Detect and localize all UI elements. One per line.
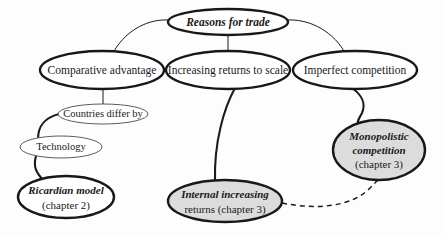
node-label-internal-increasing-returns-line2: returns (chapter 3) [184,203,266,216]
node-comparative-advantage[interactable]: Comparative advantage [40,51,164,89]
node-technology[interactable]: Technology [20,136,102,158]
node-increasing-returns-to-scale[interactable]: Increasing returns to scale [166,51,290,89]
node-label-technology: Technology [36,141,86,152]
trade-reasons-diagram: Reasons for trade Comparative advantage … [0,0,446,236]
node-label-imperfect-competition: Imperfect competition [304,64,407,77]
node-internal-increasing-returns[interactable]: Internal increasing returns (chapter 3) [168,180,282,222]
node-label-internal-increasing-returns-line1: Internal increasing [180,188,269,200]
node-label-monopolistic-competition-line2: competition [352,144,405,156]
node-layer: Reasons for trade Comparative advantage … [18,9,425,222]
node-label-increasing-returns-to-scale: Increasing returns to scale [168,64,288,77]
node-label-reasons-for-trade: Reasons for trade [185,16,270,29]
node-shape-ricardian-model [18,176,114,218]
edge-technology-to-ricardian [35,156,43,180]
node-label-monopolistic-competition-line1: Monopolistic [348,130,408,142]
edge-countries-to-technology [38,114,59,139]
node-ricardian-model[interactable]: Ricardian model (chapter 2) [18,176,114,218]
edge-reasons-to-imperfect [288,20,345,51]
node-label-comparative-advantage: Comparative advantage [48,64,157,77]
node-monopolistic-competition[interactable]: Monopolistic competition (chapter 3) [333,120,425,180]
edge-imperfect-to-monopolistic [352,88,364,124]
edge-internal-to-monopolistic [282,179,380,206]
node-shape-internal-increasing-returns [168,180,282,222]
node-label-ricardian-model-line1: Ricardian model [27,184,104,196]
edge-increasing-to-internal [215,88,235,181]
node-imperfect-competition[interactable]: Imperfect competition [293,51,417,89]
node-countries-differ-by[interactable]: Countries differ by [58,104,148,124]
diagram-canvas: Reasons for trade Comparative advantage … [0,0,446,236]
node-label-countries-differ-by: Countries differ by [63,108,143,119]
node-label-ricardian-model-line2: (chapter 2) [42,199,90,212]
node-reasons-for-trade[interactable]: Reasons for trade [168,9,288,35]
node-label-monopolistic-competition-line3: (chapter 3) [355,158,403,171]
edge-reasons-to-comparative [114,20,169,51]
